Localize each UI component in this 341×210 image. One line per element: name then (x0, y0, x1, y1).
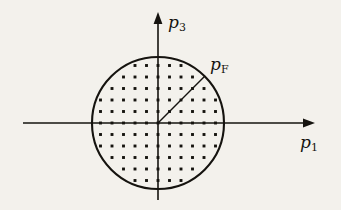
horizontal-axis-label-symbol: p (300, 132, 311, 152)
momentum-state-dot (134, 64, 137, 67)
momentum-state-dot (214, 133, 217, 136)
momentum-state-dot (111, 87, 114, 90)
momentum-state-dot (145, 99, 148, 102)
momentum-state-dot (145, 122, 148, 125)
momentum-state-dot (191, 156, 194, 159)
momentum-state-dot (214, 122, 217, 125)
momentum-state-dot (191, 133, 194, 136)
momentum-state-dot (203, 156, 206, 159)
momentum-state-dot (191, 99, 194, 102)
momentum-state-dot (168, 87, 171, 90)
momentum-state-dot (145, 110, 148, 113)
momentum-state-dot (122, 133, 125, 136)
momentum-state-dot (191, 145, 194, 148)
momentum-state-dot (99, 133, 102, 136)
momentum-state-dot (134, 99, 137, 102)
momentum-state-dot (180, 145, 183, 148)
momentum-state-dot (180, 64, 183, 67)
momentum-state-dot (134, 168, 137, 171)
momentum-state-dot (203, 99, 206, 102)
momentum-state-dot (203, 145, 206, 148)
momentum-state-dot (157, 156, 160, 159)
momentum-state-dot (191, 76, 194, 79)
momentum-state-dot (168, 168, 171, 171)
momentum-state-dot (157, 64, 160, 67)
momentum-state-dot (191, 110, 194, 113)
momentum-state-dot (134, 110, 137, 113)
vertical-axis-label-subscript: 3 (179, 21, 186, 34)
momentum-state-dot (157, 110, 160, 113)
momentum-state-dot (99, 110, 102, 113)
momentum-state-dot (203, 133, 206, 136)
momentum-state-dot (122, 110, 125, 113)
momentum-state-dot (145, 76, 148, 79)
momentum-state-dot (134, 145, 137, 148)
fermi-momentum-label: pF (210, 56, 229, 73)
momentum-state-dot (111, 145, 114, 148)
fermi-sphere-figure: p3 p1 pF (0, 0, 341, 210)
momentum-state-dot (168, 76, 171, 79)
momentum-state-dot (145, 64, 148, 67)
momentum-state-dot (157, 133, 160, 136)
momentum-state-dot (157, 145, 160, 148)
momentum-state-dot (134, 179, 137, 182)
momentum-state-dot (168, 156, 171, 159)
momentum-state-dot (157, 122, 160, 125)
momentum-state-dot (122, 122, 125, 125)
momentum-state-dot (168, 110, 171, 113)
momentum-state-dot (134, 76, 137, 79)
momentum-state-dot (203, 87, 206, 90)
momentum-state-dot (134, 156, 137, 159)
momentum-state-dot (145, 179, 148, 182)
momentum-state-dot (168, 64, 171, 67)
momentum-state-dot (180, 110, 183, 113)
momentum-state-dot (134, 122, 137, 125)
fermi-momentum-label-symbol: p (210, 54, 221, 74)
momentum-state-dot (180, 87, 183, 90)
momentum-state-dot (180, 76, 183, 79)
horizontal-axis-label: p1 (300, 134, 318, 151)
momentum-state-dot (145, 156, 148, 159)
momentum-state-dot (122, 87, 125, 90)
momentum-state-dot (214, 145, 217, 148)
momentum-state-dot (214, 99, 217, 102)
momentum-state-dot (122, 168, 125, 171)
momentum-state-dot (168, 122, 171, 125)
horizontal-axis-arrowhead (303, 119, 315, 128)
momentum-state-dot (145, 133, 148, 136)
fermi-momentum-label-subscript: F (221, 63, 229, 76)
momentum-state-dot (191, 87, 194, 90)
momentum-state-dot (180, 168, 183, 171)
vertical-axis-label: p3 (168, 14, 186, 31)
momentum-state-dot (203, 122, 206, 125)
momentum-state-dot (122, 76, 125, 79)
momentum-state-dot (168, 133, 171, 136)
momentum-state-dot (168, 179, 171, 182)
momentum-state-dot (180, 179, 183, 182)
momentum-state-dot (122, 145, 125, 148)
momentum-state-dot (111, 122, 114, 125)
momentum-state-dot (191, 168, 194, 171)
momentum-state-dot (145, 145, 148, 148)
momentum-state-dot (157, 179, 160, 182)
momentum-state-dot (111, 156, 114, 159)
momentum-state-dot (122, 99, 125, 102)
horizontal-axis-label-subscript: 1 (311, 141, 318, 154)
momentum-state-dot (180, 99, 183, 102)
momentum-state-dot (168, 145, 171, 148)
momentum-state-dot (157, 87, 160, 90)
momentum-state-dot (157, 76, 160, 79)
momentum-state-dot (111, 133, 114, 136)
momentum-state-dot (168, 99, 171, 102)
momentum-state-dot (214, 110, 217, 113)
momentum-state-dot (203, 110, 206, 113)
momentum-state-dot (157, 99, 160, 102)
momentum-state-dot (157, 168, 160, 171)
momentum-state-dot (191, 122, 194, 125)
momentum-state-dot (134, 87, 137, 90)
vertical-axis-arrowhead (154, 12, 163, 24)
vertical-axis (154, 12, 163, 200)
momentum-state-dot (111, 110, 114, 113)
momentum-state-dot (134, 133, 137, 136)
momentum-state-dot (180, 156, 183, 159)
